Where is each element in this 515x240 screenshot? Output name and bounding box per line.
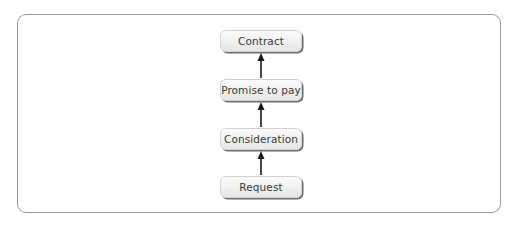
node-request: Request [220,176,302,198]
node-label: Promise to pay [221,84,301,96]
node-promise-to-pay: Promise to pay [220,79,302,101]
node-label: Contract [238,35,284,47]
node-label: Request [239,181,282,193]
node-consideration: Consideration [220,128,302,150]
node-contract: Contract [220,30,302,52]
node-label: Consideration [224,133,298,145]
arrow-up-icon [256,151,266,176]
arrow-up-icon [256,53,266,79]
arrow-up-icon [256,102,266,128]
